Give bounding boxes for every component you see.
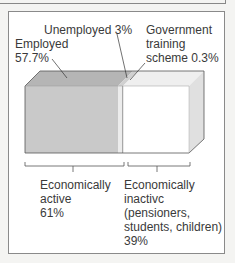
label-unemployed: Unemployed 3% [44, 23, 132, 37]
active-bracket [25, 162, 124, 166]
inactive-segment [124, 86, 190, 153]
label-employed: Employed 57.7% [15, 37, 68, 65]
inactive-bracket [128, 162, 190, 166]
employed-segment [25, 86, 118, 153]
label-training: Government training scheme 0.3% [146, 23, 219, 65]
training-segment [122, 86, 124, 153]
label-economically-active: Economically active 61% [40, 178, 111, 220]
unemployed-segment [118, 86, 122, 153]
label-economically-inactive: Economically inactivc (pensioners, stude… [124, 178, 222, 248]
employed-top-face [25, 71, 133, 86]
